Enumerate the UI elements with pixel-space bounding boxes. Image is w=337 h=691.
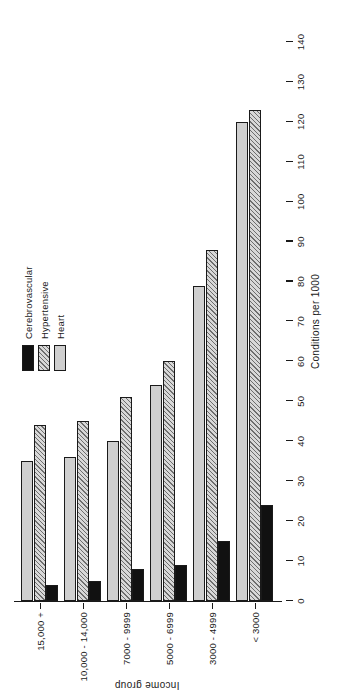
category-tick [212, 603, 213, 609]
legend-item: Heart [54, 181, 66, 371]
value-tick-label: 60 [295, 356, 306, 367]
legend-item-label: Cerebrovascular [23, 266, 34, 339]
value-tick-label: 120 [295, 114, 306, 130]
bar-group [236, 42, 273, 601]
bar-group [150, 42, 187, 601]
bar-heart [107, 441, 119, 601]
bar-heart [21, 461, 33, 601]
chart-legend: CerebrovascularHypertensiveHeart [22, 181, 70, 371]
value-tick [286, 360, 293, 361]
category-tick-label: 3000 - 4999 [206, 612, 217, 665]
legend-item: Hypertensive [38, 181, 50, 371]
category-axis-title: Income group [115, 680, 180, 691]
value-tick-label: 130 [295, 74, 306, 90]
category-tick-label: 10,000 - 14,000 [77, 612, 88, 682]
category-tick-label: 5000 - 6999 [163, 612, 174, 665]
category-tick [126, 603, 127, 609]
category-tick-label: < 3000 [249, 612, 260, 643]
hatched-swatch [38, 345, 50, 371]
light-gray-swatch [54, 345, 66, 371]
value-tick [286, 400, 293, 401]
bar-cerebrovascular [218, 541, 230, 601]
bar-cerebrovascular [261, 505, 273, 601]
bar-hypertensive [249, 110, 261, 601]
value-tick-label: 100 [295, 193, 306, 209]
category-tick [40, 603, 41, 609]
bar-cerebrovascular [46, 585, 58, 601]
category-tick-label: 15,000 + [34, 612, 45, 651]
value-tick [286, 520, 293, 521]
category-tick [169, 603, 170, 609]
value-axis: Conditions per 1000 01020304050607080901… [286, 42, 326, 601]
bar-heart [64, 457, 76, 601]
bar-hypertensive [120, 397, 132, 601]
value-tick [286, 600, 293, 601]
category-axis: Income group < 30003000 - 49995000 - 699… [18, 603, 276, 671]
bar-hypertensive [163, 361, 175, 601]
value-tick-label: 40 [295, 436, 306, 447]
bar-group [107, 42, 144, 601]
bar-hypertensive [206, 250, 218, 601]
bar-group [193, 42, 230, 601]
value-tick-label: 30 [295, 476, 306, 487]
value-tick-label: 10 [295, 556, 306, 567]
bar-cerebrovascular [132, 569, 144, 601]
value-tick [286, 121, 293, 122]
value-tick [286, 41, 293, 42]
solid-black-swatch [22, 345, 34, 371]
bar-cerebrovascular [175, 565, 187, 601]
value-tick [286, 240, 293, 241]
legend-item: Cerebrovascular [22, 181, 34, 371]
value-tick [286, 161, 293, 162]
value-tick [286, 201, 293, 202]
value-tick [286, 440, 293, 441]
bar-heart [236, 122, 248, 601]
value-tick [286, 480, 293, 481]
bar-heart [193, 286, 205, 601]
category-tick [255, 603, 256, 609]
value-tick-label: 50 [295, 396, 306, 407]
value-tick-label: 80 [295, 276, 306, 287]
legend-item-label: Heart [55, 315, 66, 339]
bar-heart [150, 385, 162, 601]
value-tick-label: 140 [295, 34, 306, 50]
value-tick-label: 110 [295, 154, 306, 170]
value-axis-title: Conditions per 1000 [310, 42, 321, 601]
bar-hypertensive [34, 425, 46, 601]
value-tick-label: 70 [295, 316, 306, 327]
category-tick-label: 7000 - 9999 [120, 612, 131, 665]
category-tick [83, 603, 84, 609]
value-tick-label: 20 [295, 516, 306, 527]
bar-cerebrovascular [89, 581, 101, 601]
value-tick [286, 280, 293, 281]
value-tick [286, 81, 293, 82]
value-tick-label: 0 [295, 598, 306, 603]
bar-hypertensive [77, 421, 89, 601]
legend-item-label: Hypertensive [39, 281, 50, 339]
value-tick-label: 90 [295, 236, 306, 247]
value-tick [286, 320, 293, 321]
value-tick [286, 560, 293, 561]
